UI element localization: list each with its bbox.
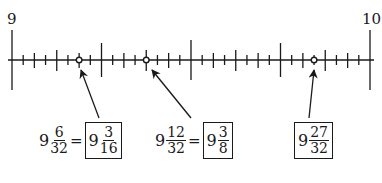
denominator: 32	[50, 141, 68, 156]
whole-number: 9	[298, 131, 308, 150]
equals-sign: =	[70, 132, 83, 150]
numerator: 6	[54, 125, 65, 141]
arrow-3	[309, 70, 314, 118]
point-marker	[76, 57, 82, 63]
fraction: 6 32	[50, 125, 68, 156]
denominator: 32	[310, 141, 328, 156]
arrow-2	[152, 70, 191, 118]
numerator: 12	[166, 125, 186, 141]
fraction: 3 16	[100, 125, 118, 156]
numerator: 27	[309, 125, 329, 141]
label-six-thirty-seconds: 9 6 32 = 9 3 16	[39, 122, 122, 159]
label-twenty-seven-thirty-seconds: 9 27 32	[294, 122, 333, 159]
whole-number: 9	[39, 131, 49, 150]
point-marker	[311, 57, 317, 63]
fraction: 12 32	[166, 125, 186, 156]
label-twelve-thirty-seconds: 9 12 32 = 9 3 8	[155, 122, 233, 159]
whole-number: 9	[89, 131, 99, 150]
denominator: 32	[167, 141, 185, 156]
whole-number: 9	[207, 131, 217, 150]
arrow-1	[81, 70, 99, 118]
point-marker	[143, 57, 149, 63]
denominator: 16	[100, 141, 118, 156]
denominator: 8	[219, 141, 228, 156]
answer-box: 9 27 32	[294, 122, 333, 159]
start-label: 9	[7, 12, 17, 27]
fraction: 27 32	[309, 125, 329, 156]
number-line-diagram: 9 10 9 6 32 = 9 3 16 9 12 32 = 9 3 8	[0, 0, 382, 183]
end-label: 10	[362, 12, 381, 27]
simplified-answer-box: 9 3 8	[203, 122, 233, 159]
numerator: 3	[218, 125, 229, 141]
fraction: 3 8	[218, 125, 229, 156]
simplified-answer-box: 9 3 16	[85, 122, 122, 159]
whole-number: 9	[155, 131, 165, 150]
numerator: 3	[103, 125, 114, 141]
equals-sign: =	[188, 132, 201, 150]
